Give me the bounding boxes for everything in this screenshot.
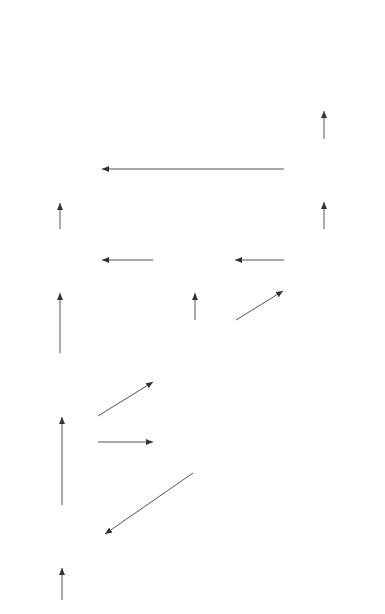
connector-layer — [0, 0, 385, 614]
flowchart-canvas — [0, 0, 385, 614]
edge-domain-pairwise — [105, 473, 193, 534]
edge-profile-fast — [98, 382, 153, 416]
edge-fast-cora — [236, 291, 283, 320]
